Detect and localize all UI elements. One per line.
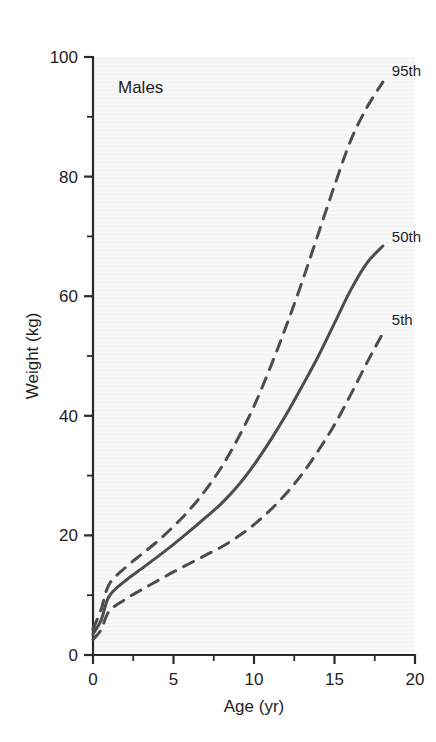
curve-label-95th: 95th xyxy=(392,62,421,79)
growth-chart-figure: 020406080100 05101520 95th50th5th Males … xyxy=(0,0,436,742)
x-axis-title: Age (yr) xyxy=(224,697,284,716)
y-tick-label-20: 20 xyxy=(59,526,78,545)
x-tick-label-0: 0 xyxy=(88,670,97,689)
curve-label-50th: 50th xyxy=(392,228,421,245)
chart-canvas: 020406080100 05101520 95th50th5th Males … xyxy=(0,0,436,742)
curve-label-5th: 5th xyxy=(392,311,413,328)
y-axis-title: Weight (kg) xyxy=(23,313,42,400)
x-tick-label-10: 10 xyxy=(245,670,264,689)
panel-label-males: Males xyxy=(118,78,163,97)
y-tick-label-0: 0 xyxy=(69,646,78,665)
y-tick-label-80: 80 xyxy=(59,168,78,187)
x-tick-label-15: 15 xyxy=(325,670,344,689)
plot-area-background xyxy=(93,57,415,655)
y-tick-label-40: 40 xyxy=(59,407,78,426)
x-tick-label-5: 5 xyxy=(169,670,178,689)
y-tick-label-60: 60 xyxy=(59,287,78,306)
y-tick-label-100: 100 xyxy=(50,48,78,67)
x-tick-label-20: 20 xyxy=(406,670,425,689)
